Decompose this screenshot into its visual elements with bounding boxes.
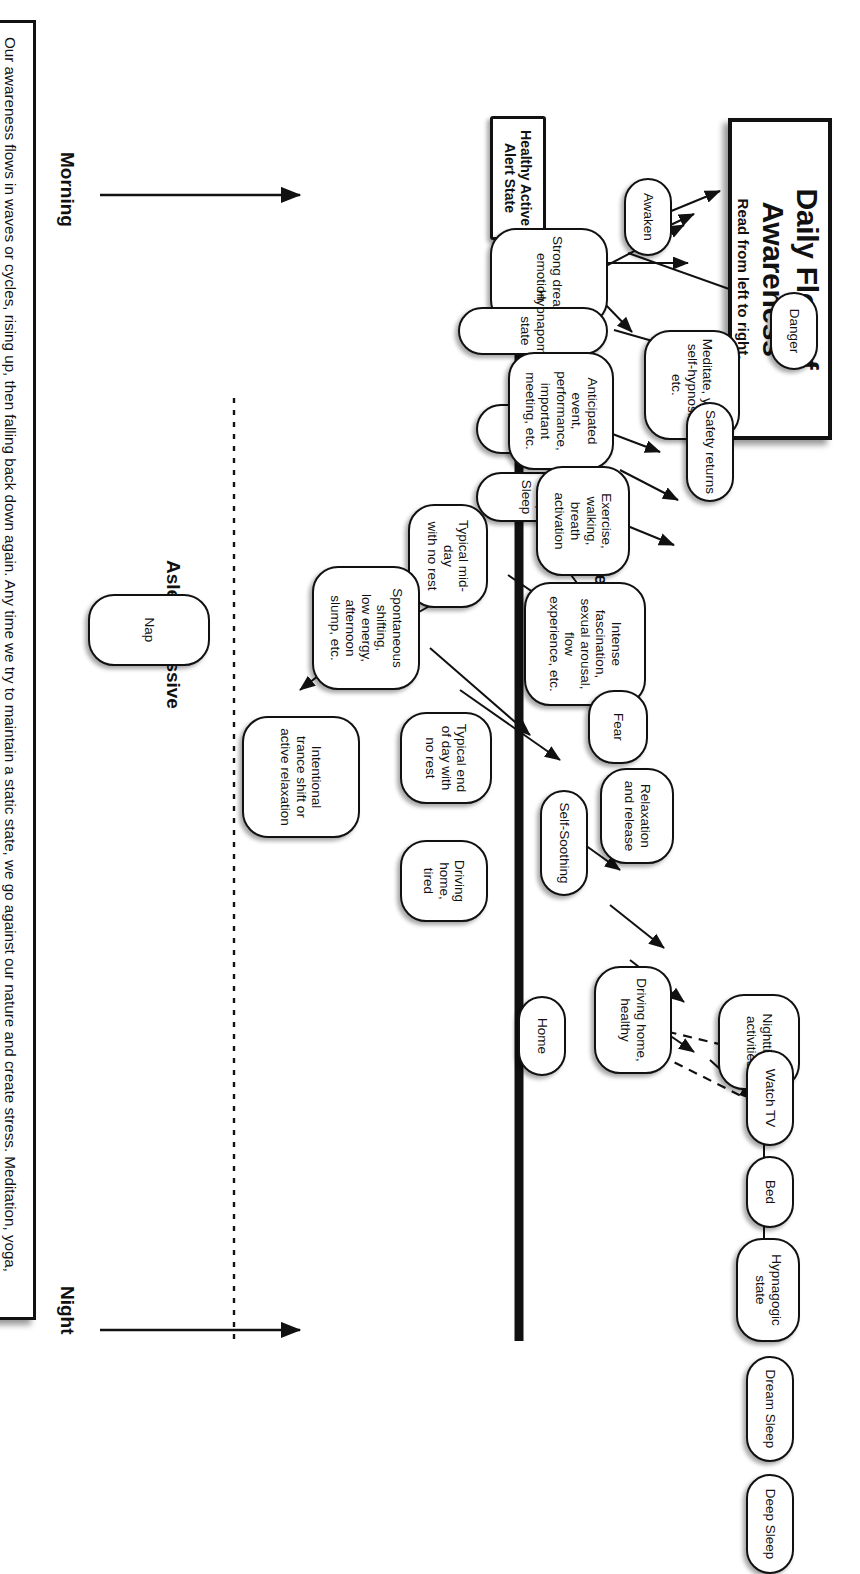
node-hypnagogic-state[interactable]: Hypnagogic state — [736, 1238, 800, 1342]
explanatory-note: Our awareness flows in waves or cycles, … — [0, 20, 36, 1320]
node-home[interactable]: Home — [518, 996, 566, 1076]
node-dream-sleep-night[interactable]: Dream Sleep — [746, 1356, 794, 1462]
node-typical-midday[interactable]: Typical mid-day with no rest — [408, 504, 488, 608]
node-safety-returns[interactable]: Safety returns — [686, 402, 734, 502]
page-title: Daily Flow of Awareness — [757, 122, 825, 436]
time-label-morning: Morning — [56, 152, 78, 227]
node-driving-home-healthy[interactable]: Driving home, healthy — [594, 966, 672, 1074]
node-spontaneous-shifting[interactable]: Spontaneous shifting, low energy, aftern… — [312, 566, 420, 690]
node-danger[interactable]: Danger — [770, 292, 818, 370]
node-bed[interactable]: Bed — [746, 1156, 794, 1228]
node-deep-sleep-night[interactable]: Deep Sleep — [746, 1474, 794, 1574]
node-typical-end-of-day[interactable]: Typical end of day with no rest — [400, 712, 492, 804]
node-fear[interactable]: Fear — [588, 690, 648, 764]
node-driving-home-tired[interactable]: Driving home, tired — [400, 840, 488, 922]
node-intense-fascination[interactable]: Intense fascination, sexual arousal, flo… — [524, 582, 646, 706]
node-intentional-trance[interactable]: Intentional trance shift or active relax… — [242, 716, 360, 838]
time-label-night: Night — [56, 1286, 78, 1335]
arrow-awaken-baseline — [664, 191, 720, 214]
node-watch-tv[interactable]: Watch TV — [746, 1050, 794, 1146]
node-healthy-active-alert-state[interactable]: Healthy Active Alert State — [490, 116, 546, 240]
page-subtitle: Read from left to right. — [736, 199, 753, 360]
node-exercise[interactable]: Exercise, walking, breath activation — [536, 466, 630, 576]
node-self-soothing[interactable]: Self-Soothing — [540, 790, 588, 896]
node-relaxation[interactable]: Relaxation and release — [600, 768, 674, 864]
title-box: Daily Flow of Awareness Read from left t… — [728, 118, 832, 440]
node-nap[interactable]: Nap — [88, 594, 210, 666]
node-anticipated-event[interactable]: Anticipated event, performance, importan… — [508, 352, 614, 470]
node-hypnapompic-state[interactable]: Hypnapompic state — [458, 307, 608, 355]
node-awaken[interactable]: Awaken — [624, 178, 672, 256]
